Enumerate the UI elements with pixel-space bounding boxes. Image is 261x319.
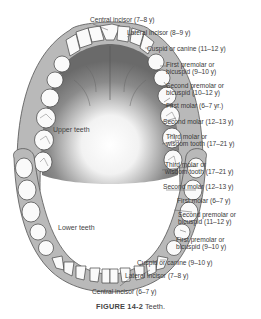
lower-teeth-label: Lower teeth <box>58 224 95 231</box>
label-lower-first-molar: First molar (6–7 y) <box>177 197 231 204</box>
label-lower-central-incisor: Central incisor (6–7 y) <box>92 288 157 295</box>
label-line2: bicuspid (11–12 y) <box>178 218 236 225</box>
label-upper-second-premolar: Second premolar or bicuspid (10–12 y) <box>166 82 224 96</box>
label-lower-second-premolar: Second premolar or bicuspid (11–12 y) <box>178 211 236 225</box>
label-upper-cuspid: Cuspid or canine (11–12 y) <box>147 45 226 52</box>
label-line1: Third molar or <box>165 161 234 168</box>
label-line2: bicuspid (9–10 y) <box>176 243 226 250</box>
teeth-diagram: Central incisor (7–8 y) Lateral incisor … <box>0 0 261 300</box>
label-lower-cuspid: Cuspid or canine (9–10 y) <box>137 259 213 266</box>
label-upper-first-molar: First molar (6–7 yr.) <box>166 102 223 109</box>
label-line1: Third molar or <box>166 133 235 140</box>
label-line1: First premolar or <box>176 236 226 243</box>
label-upper-central-incisor: Central incisor (7–8 y) <box>90 16 155 23</box>
figure-caption: FIGURE 14-2 Teeth. <box>0 302 261 311</box>
label-lower-third-molar: Third molar or wisdom tooth (17–21 y) <box>165 161 234 175</box>
figure-caption-text: Teeth. <box>145 302 165 311</box>
label-upper-third-molar: Third molar or wisdom tooth (17–21 y) <box>166 133 235 147</box>
label-line1: Second premolar or <box>166 82 224 89</box>
label-line2: bicuspid (9–10 y) <box>166 68 216 75</box>
label-upper-first-premolar: First premolar or bicuspid (9–10 y) <box>166 61 216 75</box>
label-line1: Second premolar or <box>178 211 236 218</box>
label-lower-second-molar: Second molar (12–13 y) <box>163 183 233 190</box>
figure-number: FIGURE 14-2 <box>96 302 143 311</box>
label-line1: First premolar or <box>166 61 216 68</box>
label-line2: bicuspid (10–12 y) <box>166 89 224 96</box>
label-lower-lateral-incisor: Lateral incisor (7–8 y) <box>125 272 188 279</box>
label-upper-lateral-incisor: Lateral incisor (8–9 y) <box>127 29 190 36</box>
upper-teeth-label: Upper teeth <box>53 126 90 133</box>
label-lower-first-premolar: First premolar or bicuspid (9–10 y) <box>176 236 226 250</box>
label-line2: wisdom tooth (17–21 y) <box>166 140 235 147</box>
label-upper-second-molar: Second molar (12–13 y) <box>163 118 233 125</box>
label-line2: wisdom tooth (17–21 y) <box>165 168 234 175</box>
